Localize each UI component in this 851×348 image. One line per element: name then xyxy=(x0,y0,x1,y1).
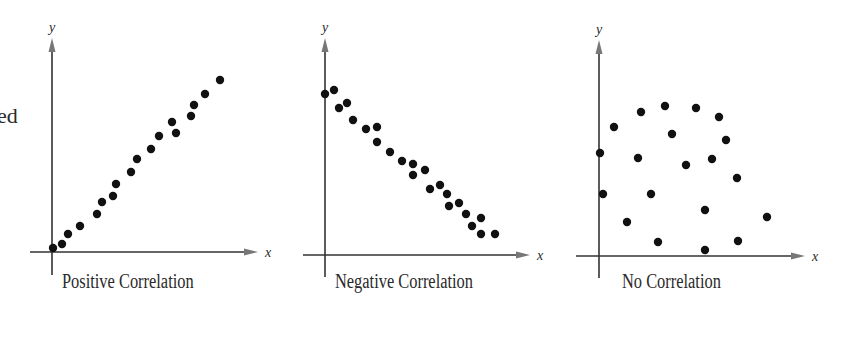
data-point xyxy=(362,125,370,133)
data-point xyxy=(349,116,357,124)
data-point xyxy=(443,190,451,198)
x-axis-label: x xyxy=(264,245,272,260)
y-axis-label: y xyxy=(594,22,603,37)
data-point xyxy=(127,168,135,176)
data-point xyxy=(147,145,155,153)
data-point xyxy=(647,190,655,198)
data-point xyxy=(112,180,120,188)
data-point xyxy=(734,237,742,245)
data-point xyxy=(610,123,618,131)
data-point xyxy=(168,118,176,126)
data-point xyxy=(373,138,381,146)
data-point xyxy=(343,99,351,107)
y-axis-label: y xyxy=(320,20,329,35)
data-point xyxy=(733,174,741,182)
data-point xyxy=(623,218,631,226)
data-point xyxy=(426,185,434,193)
data-point xyxy=(701,246,709,254)
data-point xyxy=(715,113,723,121)
data-point xyxy=(76,222,84,230)
data-point xyxy=(634,154,642,162)
data-point xyxy=(599,190,607,198)
data-point xyxy=(468,222,476,230)
data-point xyxy=(661,102,669,110)
data-point xyxy=(436,181,444,189)
data-point xyxy=(64,230,72,238)
data-point xyxy=(682,161,690,169)
x-axis-label: x xyxy=(536,248,544,263)
data-point xyxy=(58,240,66,248)
data-point xyxy=(708,155,716,163)
data-point xyxy=(398,157,406,165)
data-point xyxy=(477,214,485,222)
data-point xyxy=(763,213,771,221)
data-point xyxy=(373,123,381,131)
data-point xyxy=(462,210,470,218)
y-axis-arrow-icon xyxy=(596,40,603,54)
data-point xyxy=(330,86,338,94)
data-point xyxy=(421,166,429,174)
data-point xyxy=(668,130,676,138)
data-point xyxy=(701,206,709,214)
x-axis-arrow-icon xyxy=(791,253,805,260)
correlation-scatter-plots: xyxyxy xyxy=(0,0,851,348)
data-point xyxy=(722,136,730,144)
data-point xyxy=(321,90,329,98)
x-axis-arrow-icon xyxy=(244,249,258,256)
data-point xyxy=(216,76,224,84)
x-axis-arrow-icon xyxy=(516,252,530,259)
data-point xyxy=(109,192,117,200)
data-point xyxy=(93,210,101,218)
data-point xyxy=(491,230,499,238)
data-point xyxy=(386,148,394,156)
data-point xyxy=(190,101,198,109)
data-point xyxy=(654,238,662,246)
data-point xyxy=(409,171,417,179)
data-point xyxy=(477,230,485,238)
data-point xyxy=(596,149,604,157)
data-point xyxy=(98,198,106,206)
data-point xyxy=(409,160,417,168)
data-point xyxy=(172,129,180,137)
data-point xyxy=(133,155,141,163)
data-point xyxy=(692,104,700,112)
caption-negative: Negative Correlation xyxy=(335,270,473,293)
data-point xyxy=(187,112,195,120)
caption-no-correlation: No Correlation xyxy=(622,270,721,293)
data-point xyxy=(445,202,453,210)
x-axis-label: x xyxy=(811,249,819,264)
y-axis-arrow-icon xyxy=(49,38,56,52)
data-point xyxy=(637,108,645,116)
data-point xyxy=(201,90,209,98)
caption-positive: Positive Correlation xyxy=(62,270,194,293)
data-point xyxy=(335,104,343,112)
data-point xyxy=(155,132,163,140)
data-point xyxy=(455,199,463,207)
y-axis-label: y xyxy=(47,20,56,35)
y-axis-arrow-icon xyxy=(322,38,329,52)
data-point xyxy=(49,244,57,252)
